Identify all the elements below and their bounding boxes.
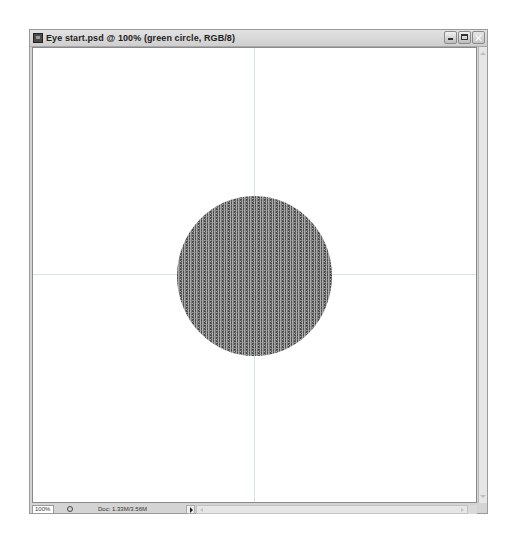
scroll-right-icon[interactable] bbox=[461, 508, 464, 512]
zoom-level-field[interactable]: 100% bbox=[32, 505, 54, 514]
minimize-button[interactable] bbox=[444, 31, 457, 44]
close-button[interactable] bbox=[472, 31, 485, 44]
title-bar[interactable]: Eye start.psd @ 100% (green circle, RGB/… bbox=[30, 30, 487, 47]
preview-icon[interactable] bbox=[64, 505, 78, 514]
vertical-scrollbar[interactable] bbox=[478, 47, 487, 503]
scroll-left-icon[interactable] bbox=[200, 508, 203, 512]
horizontal-scrollbar[interactable] bbox=[196, 505, 468, 514]
document-window: Eye start.psd @ 100% (green circle, RGB/… bbox=[29, 29, 488, 514]
scroll-up-icon[interactable] bbox=[480, 52, 486, 55]
status-menu-arrow-icon[interactable] bbox=[186, 505, 195, 514]
resize-grip[interactable] bbox=[468, 505, 477, 514]
document-size-info: Doc: 1.33M/3.56M bbox=[98, 505, 182, 514]
maximize-button[interactable] bbox=[458, 31, 471, 44]
scroll-down-icon[interactable] bbox=[480, 495, 486, 498]
window-controls bbox=[444, 31, 485, 44]
window-title: Eye start.psd @ 100% (green circle, RGB/… bbox=[46, 33, 235, 43]
photoshop-document-icon bbox=[33, 33, 43, 43]
status-bar: 100% Doc: 1.33M/3.56M bbox=[32, 504, 477, 514]
green-circle-layer[interactable] bbox=[177, 196, 332, 356]
canvas[interactable] bbox=[32, 47, 477, 503]
